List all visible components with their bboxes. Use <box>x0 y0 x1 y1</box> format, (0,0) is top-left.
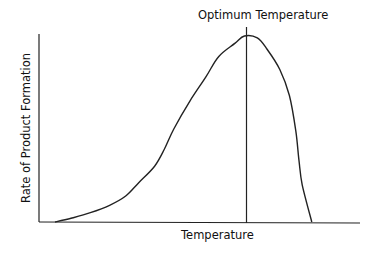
x-axis-label: Temperature <box>181 228 254 242</box>
y-axis-label: Rate of Product Formation <box>19 53 33 203</box>
rate-curve <box>55 36 312 222</box>
optimum-temperature-label: Optimum Temperature <box>198 8 328 22</box>
x-axis <box>39 222 360 223</box>
chart-canvas <box>0 0 380 257</box>
